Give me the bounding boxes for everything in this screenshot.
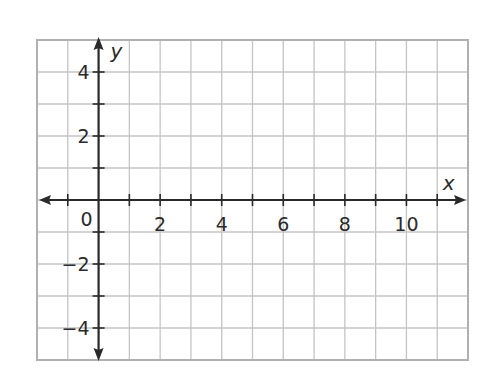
y-tick-label: 2: [77, 125, 89, 147]
y-tick-label: −4: [62, 317, 90, 339]
x-tick-label: 4: [216, 213, 228, 235]
x-axis-label: x: [442, 171, 455, 195]
y-axis-label: y: [110, 39, 124, 63]
x-tick-label: 2: [154, 213, 166, 235]
x-tick-label: 8: [339, 213, 351, 235]
y-tick-label: −2: [62, 253, 90, 275]
x-tick-label: 6: [277, 213, 289, 235]
y-tick-label: 4: [77, 61, 89, 83]
origin-label: 0: [81, 208, 93, 230]
x-tick-label: 10: [394, 213, 418, 235]
coordinate-plane: 24681042−2−4 x y 0: [0, 0, 493, 388]
